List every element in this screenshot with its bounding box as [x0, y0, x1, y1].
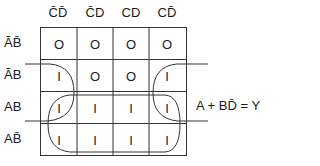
cell-3-1: I — [77, 124, 113, 156]
cell-3-3: I — [149, 124, 185, 156]
cell-2-2: I — [113, 92, 149, 124]
boolean-equation: A + BD̄ = Y — [196, 98, 260, 113]
cell-0-3: O — [149, 28, 185, 60]
cell-1-0: I — [41, 60, 77, 92]
cell-1-1: O — [77, 60, 113, 92]
cell-0-0: O — [41, 28, 77, 60]
cell-2-3: I — [149, 92, 185, 124]
cell-3-2: I — [113, 124, 149, 156]
cell-2-0: I — [41, 92, 77, 124]
cell-0-2: O — [113, 28, 149, 60]
cell-1-2: O — [113, 60, 149, 92]
cell-1-3: I — [149, 60, 185, 92]
cell-2-1: I — [77, 92, 113, 124]
cell-3-0: I — [41, 124, 77, 156]
cell-0-1: O — [77, 28, 113, 60]
